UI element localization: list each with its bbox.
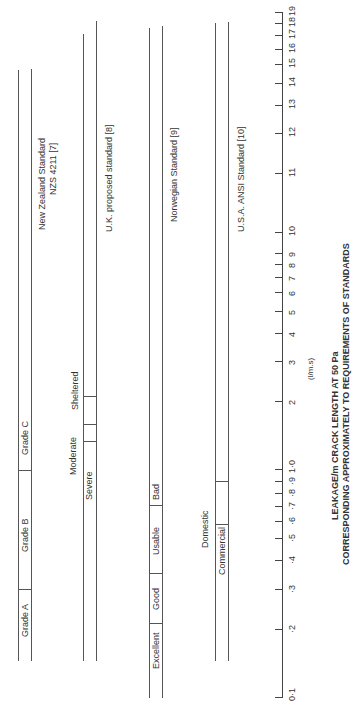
axis-tick-label: 12 <box>287 127 297 137</box>
label-grade-c: Grade C <box>20 421 30 455</box>
axis-tick-label: 2 <box>287 400 297 405</box>
axis-tick <box>275 83 282 84</box>
axis-tick <box>275 23 282 24</box>
axis-tick <box>275 481 282 482</box>
axis-tick <box>275 506 282 507</box>
axis-tick <box>275 49 282 50</box>
label-grade-b: Grade B <box>20 518 30 552</box>
label-usable: Usable <box>151 527 161 555</box>
axis-tick <box>275 232 282 233</box>
axis-tick-label: 4 <box>287 332 297 337</box>
usa-standard-name: U.S.A. ANSI Standard [10] <box>236 126 246 232</box>
label-sheltered: Sheltered <box>70 371 80 410</box>
axis-tick <box>275 311 282 312</box>
axis-tick <box>275 493 282 494</box>
nor-divider-2 <box>149 573 162 574</box>
axis-tick <box>275 361 282 362</box>
chart-title-line1: LEAKAGE/m CRACK LENGTH AT 50 Pa <box>330 351 340 520</box>
axis-tick-label: 0·1 <box>287 688 297 701</box>
uk-divider-2 <box>83 424 96 425</box>
axis-tick <box>275 105 282 106</box>
axis-tick <box>275 469 282 470</box>
label-domestic: Domestic <box>200 510 210 548</box>
uk-divider-1 <box>83 441 96 442</box>
axis-tick <box>275 12 282 13</box>
axis-tick-label: 5 <box>287 310 297 315</box>
axis-tick-label: ·3 <box>287 585 297 593</box>
nor-bar-right <box>162 26 163 698</box>
nz-divider-bc <box>18 470 31 471</box>
axis-tick-label: ·9 <box>287 477 297 485</box>
usa-divider-1 <box>215 524 228 525</box>
axis-tick-label: 16 <box>287 43 297 53</box>
nz-standard-name: New Zealand Standard <box>37 138 47 230</box>
axis-tick-label: ·2 <box>287 625 297 633</box>
nz-divider-ab <box>18 589 31 590</box>
axis-tick <box>275 697 282 698</box>
uk-bar-left <box>83 34 84 661</box>
label-commercial: Commercial <box>217 527 227 575</box>
uk-divider-3 <box>83 396 96 397</box>
axis-tick-label: 19 <box>287 6 297 16</box>
nz-bar-left <box>18 70 19 661</box>
axis-tick-label: 8 <box>287 263 297 268</box>
axis-tick-label: 7 <box>287 276 297 281</box>
axis-tick-label: 6 <box>287 291 297 296</box>
axis-tick <box>275 264 282 265</box>
axis-tick-label: 14 <box>287 77 297 87</box>
axis-tick <box>275 589 282 590</box>
axis-tick-label: 11 <box>287 168 297 177</box>
label-bad: Bad <box>151 484 161 500</box>
nor-divider-1 <box>149 623 162 624</box>
axis-tick-label: 15 <box>287 58 297 68</box>
axis-tick <box>275 560 282 561</box>
axis-tick-label: ·8 <box>287 489 297 497</box>
axis-tick <box>275 253 282 254</box>
chart-title-line2: CORRESPONDING APPROXIMATELY TO REQUIREME… <box>341 243 351 565</box>
axis-tick-label: 1·0 <box>287 460 297 473</box>
axis-tick-label: 13 <box>287 99 297 109</box>
axis-tick <box>275 133 282 134</box>
axis-tick-label: 9 <box>287 252 297 257</box>
label-excellent: Excellent <box>151 632 161 669</box>
axis-tick <box>275 173 282 174</box>
axis-tick <box>275 629 282 630</box>
label-grade-a: Grade A <box>20 604 30 637</box>
axis-tick-label: ·4 <box>287 556 297 564</box>
axis-tick-label: 10 <box>287 226 297 236</box>
uk-bar-right <box>96 21 97 661</box>
uk-standard-name: U.K. proposed standard [8] <box>104 124 114 232</box>
axis-unit: (l/m.s) <box>306 358 315 380</box>
axis-tick <box>275 64 282 65</box>
axis-tick <box>275 35 282 36</box>
axis-tick-label: ·7 <box>287 502 297 510</box>
x-axis-line <box>282 12 283 698</box>
axis-tick <box>275 521 282 522</box>
axis-tick-label: 3 <box>287 360 297 365</box>
axis-tick-label: 18 <box>287 17 297 27</box>
label-moderate: Moderate <box>68 437 78 475</box>
nz-standard-ref: NZS 4211 [7] <box>48 143 58 195</box>
nor-divider-3 <box>149 505 162 506</box>
axis-tick-label: ·6 <box>287 517 297 525</box>
axis-tick <box>275 538 282 539</box>
axis-tick-label: ·5 <box>287 534 297 542</box>
nor-bar-left <box>149 28 150 698</box>
nor-standard-name: Norwegian Standard [9] <box>169 127 179 222</box>
axis-tick <box>275 333 282 334</box>
nz-bar-right <box>31 69 32 661</box>
usa-bar-left <box>215 23 216 661</box>
label-severe: Severe <box>84 471 94 500</box>
axis-tick <box>275 277 282 278</box>
axis-tick-label: 17 <box>287 29 297 39</box>
usa-divider-2 <box>215 481 228 482</box>
usa-bar-right <box>228 22 229 661</box>
axis-tick <box>275 401 282 402</box>
axis-tick <box>275 292 282 293</box>
label-good: Good <box>151 588 161 610</box>
